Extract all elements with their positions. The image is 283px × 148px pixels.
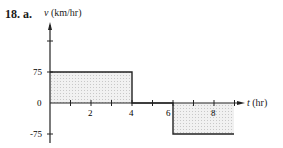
x-tick-label: 2	[88, 108, 93, 118]
x-axis-arrow-icon	[237, 101, 245, 105]
shaded-region-negative	[173, 103, 234, 134]
y-tick-label: 75	[33, 67, 43, 77]
y-axis-arrow-icon	[48, 22, 52, 30]
x-tick-label: 4	[129, 108, 134, 118]
shaded-region-positive	[50, 72, 132, 103]
x-tick-label: 6	[166, 108, 171, 118]
y-tick-label: 0	[37, 98, 42, 108]
x-tick-label: 8	[211, 108, 216, 118]
chart-canvas: 2 4 6 8 75 0 -75	[0, 0, 283, 148]
y-tick-label: -75	[30, 129, 42, 139]
